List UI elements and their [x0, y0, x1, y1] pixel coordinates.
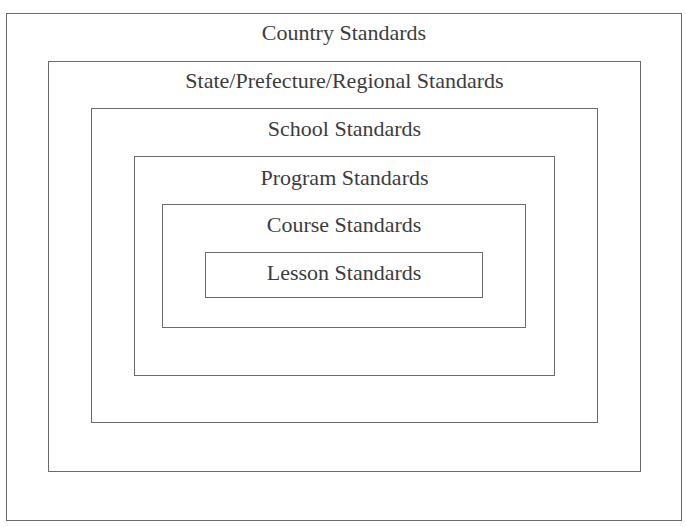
- lesson-standards-label: Lesson Standards: [206, 260, 482, 286]
- state-standards-label: State/Prefecture/Regional Standards: [49, 68, 640, 94]
- program-standards-label: Program Standards: [135, 165, 554, 191]
- course-standards-label: Course Standards: [163, 212, 525, 238]
- school-standards-label: School Standards: [92, 116, 597, 142]
- lesson-standards-box: Lesson Standards: [205, 252, 483, 298]
- country-standards-label: Country Standards: [7, 20, 681, 46]
